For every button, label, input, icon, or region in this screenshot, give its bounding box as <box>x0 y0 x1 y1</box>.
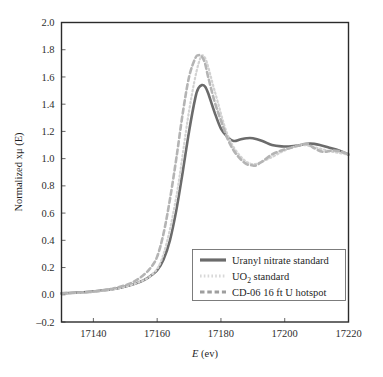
y-tick-label: 1.0 <box>41 153 54 164</box>
chart-background <box>0 0 383 377</box>
x-axis-title: E (ev) <box>191 348 218 360</box>
y-tick-label: 0.2 <box>41 262 54 273</box>
y-tick-label: 2.0 <box>41 17 54 28</box>
y-tick-label: 1.8 <box>41 44 54 55</box>
x-tick-label: 17220 <box>335 328 361 339</box>
x-tick-label: 17180 <box>208 328 234 339</box>
legend-label-cd06-hotspot: CD-06 16 ft U hotspot <box>232 287 327 298</box>
y-tick-label: 1.2 <box>41 126 54 137</box>
chart-legend: Uranyl nitrate standard UO2 standard CD-… <box>193 250 346 301</box>
y-tick-label: 1.6 <box>41 72 54 83</box>
y-tick-label: 0.8 <box>41 180 54 191</box>
y-tick-label: –0.2 <box>35 317 54 328</box>
x-tick-label: 17200 <box>272 328 298 339</box>
xanes-spectra-chart: –0.20.00.20.40.60.81.01.21.41.61.82.0 17… <box>0 0 383 377</box>
y-tick-label: 0.4 <box>41 235 55 246</box>
x-tick-label: 17140 <box>80 328 106 339</box>
y-tick-label: 0.0 <box>41 289 54 300</box>
x-tick-label: 17160 <box>144 328 170 339</box>
legend-label-uranyl-nitrate: Uranyl nitrate standard <box>232 255 330 266</box>
y-tick-label: 1.4 <box>41 99 55 110</box>
y-tick-label: 0.6 <box>41 208 54 219</box>
y-axis-title: Normalized xμ (E) <box>13 132 25 212</box>
figure-container: –0.20.00.20.40.60.81.01.21.41.61.82.0 17… <box>0 0 383 377</box>
